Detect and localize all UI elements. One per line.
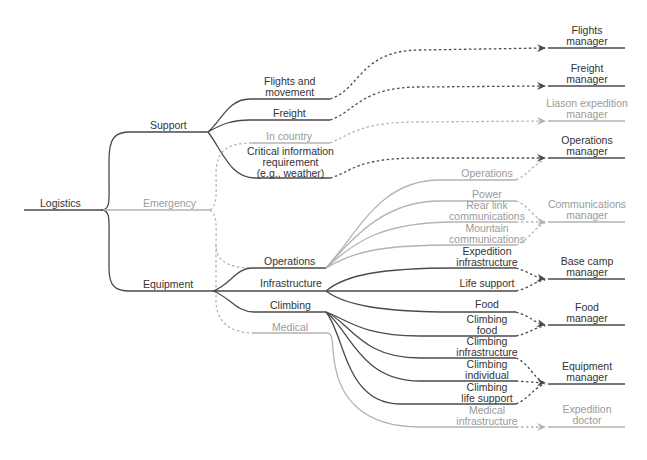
equipment-label: Equipment — [143, 279, 193, 290]
leaf-medical-infrastructure: Medical infrastructure — [442, 405, 532, 427]
operations-label: Operations — [264, 256, 315, 267]
label-line: communications — [442, 234, 532, 245]
flights-movement-label: Flights and movement — [264, 76, 315, 98]
base-camp-manager: Base camp manager — [537, 256, 637, 278]
emergency-to-operations — [210, 210, 252, 268]
label-line: manager — [537, 146, 637, 157]
label-line: individual — [442, 370, 532, 381]
critical-info-label: Critical information requirement (e.g., … — [247, 146, 334, 179]
flights-manager: Flights manager — [537, 25, 637, 47]
leaf-climbing-individual: Climbing individual — [442, 359, 532, 381]
leaf-climbing-infrastructure: Climbing infrastructure — [442, 336, 532, 358]
emergency-to-medical — [216, 245, 254, 333]
in-country-label: In country — [266, 131, 312, 142]
freight-to-mgr — [330, 86, 545, 120]
leaf-rear-link: Rear link communications — [442, 200, 532, 222]
in-country-to-liason — [330, 121, 545, 143]
operations-manager: Operations manager — [537, 135, 637, 157]
freight-manager: Freight manager — [537, 63, 637, 85]
climbing-label: Climbing — [270, 300, 311, 311]
liason-expedition-manager: Liason expedition manager — [537, 98, 637, 120]
label-line: manager — [537, 210, 637, 221]
leaf-mountain: Mountain communications — [442, 223, 532, 245]
expedition-doctor: Expedition doctor — [537, 404, 637, 426]
label-line: infrastructure — [442, 416, 532, 427]
medical-label: Medical — [272, 322, 308, 333]
label-line: manager — [537, 267, 637, 278]
label-line: doctor — [537, 415, 637, 426]
infrastructure-label: Infrastructure — [260, 278, 322, 289]
label-line: communications — [442, 211, 532, 222]
leaf-operations: Operations — [452, 168, 522, 179]
logistics-tree-diagram: Logistics Support Emergency Equipment Fl… — [0, 0, 647, 460]
flights-connector — [208, 99, 330, 132]
flights-to-mgr — [330, 48, 545, 99]
leaf-climbing-food: Climbing food — [442, 314, 532, 336]
label-line: manager — [537, 109, 637, 120]
root-label: Logistics — [40, 198, 81, 209]
leaf-food: Food — [442, 299, 532, 310]
label-line: infrastructure — [442, 257, 532, 268]
label-line: manager — [537, 36, 637, 47]
emergency-label: Emergency — [143, 198, 196, 209]
support-label: Support — [150, 120, 187, 131]
leaf-climbing-life-support: Climbing life support — [442, 382, 532, 404]
label-line: (e.g., weather) — [247, 168, 334, 179]
equipment-manager: Equipment manager — [537, 361, 637, 383]
label-line: manager — [537, 74, 637, 85]
label-line: manager — [537, 372, 637, 383]
freight-label: Freight — [273, 108, 306, 119]
leaf-expedition-infrastructure: Expedition infrastructure — [442, 246, 532, 268]
label-line: movement — [264, 87, 315, 98]
communications-manager: Communications manager — [537, 199, 637, 221]
leaf-life-support: Life support — [442, 278, 532, 289]
label-line: manager — [537, 313, 637, 324]
food-manager: Food manager — [537, 302, 637, 324]
label-line: life support — [442, 393, 532, 404]
label-line: infrastructure — [442, 347, 532, 358]
